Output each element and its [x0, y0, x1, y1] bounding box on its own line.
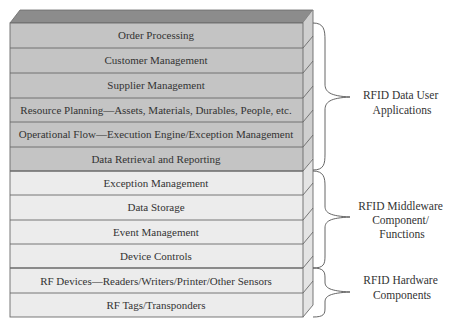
layer-order-processing: Order Processing [118, 29, 195, 41]
group-label-hardware: RFID Hardware Components [363, 274, 440, 302]
layer-rf-devices: RF Devices—Readers/Writers/Printer/Other… [40, 275, 272, 287]
layer-resource-planning: Resource Planning—Assets, Materials, Dur… [20, 104, 292, 116]
layer-operational-flow: Operational Flow—Execution Engine/Except… [19, 128, 294, 140]
brace-hardware-icon [313, 268, 350, 317]
layer-device-controls: Device Controls [120, 250, 192, 262]
rfid-layer-diagram: Order Processing Customer Management Sup… [0, 0, 453, 326]
layer-rf-tags: RF Tags/Transponders [106, 299, 205, 311]
stack-top-face [10, 10, 313, 23]
layer-exception-management: Exception Management [104, 177, 209, 189]
layer-event-management: Event Management [113, 226, 199, 238]
layer-data-retrieval: Data Retrieval and Reporting [91, 153, 221, 165]
group-label-middleware: RFID Middleware Component/ Functions [358, 200, 446, 240]
layer-customer-management: Customer Management [105, 54, 208, 66]
layer-data-storage: Data Storage [127, 201, 184, 213]
brace-applications-icon [313, 23, 350, 170]
brace-middleware-icon [313, 171, 350, 268]
group-label-applications: RFID Data User Applications [363, 89, 441, 117]
layer-supplier-management: Supplier Management [107, 79, 204, 91]
